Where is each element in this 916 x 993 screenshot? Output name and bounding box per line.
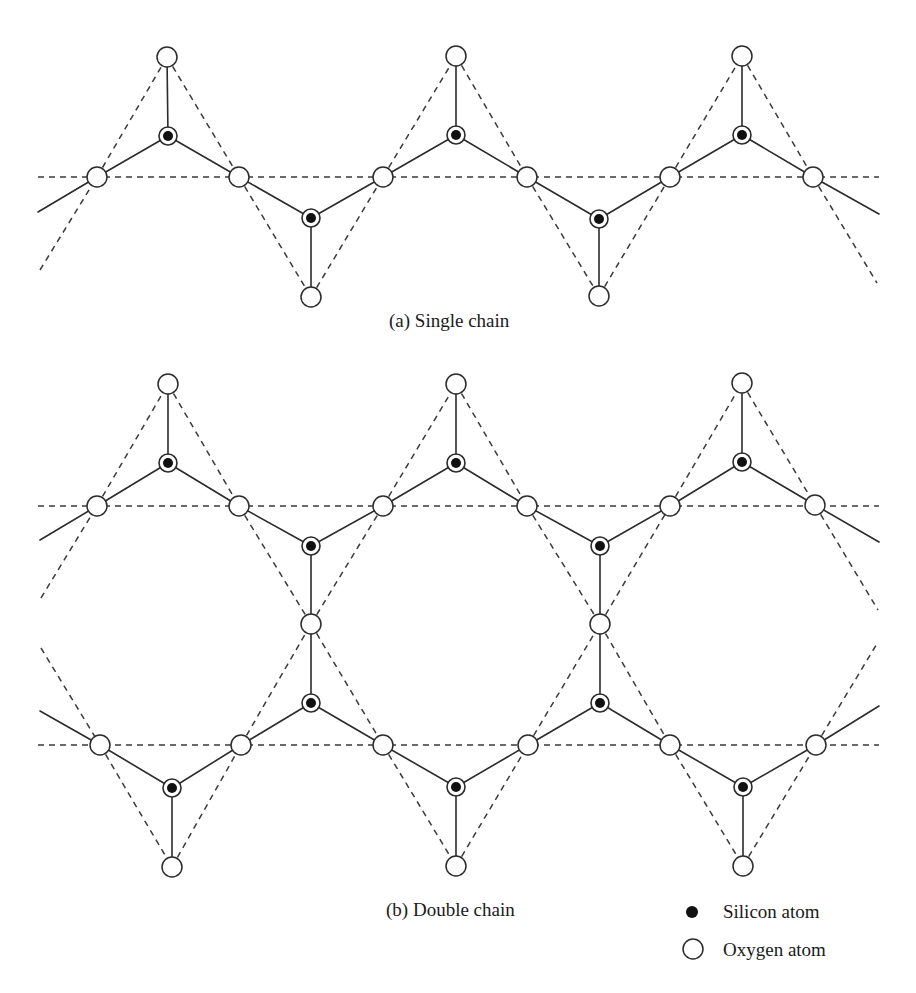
dashed-tetrahedron-edge — [239, 177, 311, 297]
silicon-atom-icon — [738, 782, 748, 792]
dashed-tetrahedron-edge — [670, 383, 742, 506]
silicon-atom-icon — [686, 906, 698, 918]
dashed-tetrahedron-edge — [816, 642, 878, 745]
oxygen-atom-icon — [517, 167, 537, 187]
caption-double-chain: (b) Double chain — [386, 899, 515, 921]
silicon-atom-icon — [737, 457, 747, 467]
oxygen-atom-icon — [733, 856, 753, 876]
panel-single-chain: (a) Single chain — [38, 46, 879, 332]
oxygen-atom-icon — [590, 614, 610, 634]
oxygen-atom-icon — [660, 496, 680, 516]
oxygen-atom-icon — [518, 735, 538, 755]
si-o-bond — [456, 463, 527, 506]
si-o-bond — [670, 745, 743, 787]
dashed-tetrahedron-edge — [742, 56, 813, 177]
oxygen-atom-icon — [229, 167, 249, 187]
si-o-bond — [241, 703, 311, 745]
oxygen-atom-icon — [732, 46, 752, 66]
oxygen-atom-icon — [157, 47, 177, 67]
dashed-tetrahedron-edge — [670, 745, 743, 866]
oxygen-atom-icon — [517, 496, 537, 516]
oxygen-atom-icon — [162, 857, 182, 877]
oxygen-atom-icon — [589, 286, 609, 306]
silicon-atom-icon — [451, 130, 461, 140]
si-o-bond — [456, 135, 527, 177]
oxygen-atom-icon — [660, 167, 680, 187]
silicon-atom-icon — [163, 131, 173, 141]
si-o-bond — [239, 177, 311, 218]
oxygen-atom-icon — [231, 735, 251, 755]
silicon-atom-icon — [306, 698, 316, 708]
si-o-bond — [600, 506, 670, 546]
si-o-bond — [600, 703, 670, 745]
dashed-tetrahedron-edge — [599, 177, 670, 296]
si-o-bond — [97, 136, 168, 177]
oxygen-atom-icon — [90, 735, 110, 755]
oxygen-atom-icon — [446, 46, 466, 66]
dashed-tetrahedron-edge — [743, 745, 816, 866]
dashed-tetrahedron-edge — [383, 384, 456, 506]
si-o-bond — [813, 177, 879, 214]
panel-double-chain: (b) Double chain — [38, 373, 879, 921]
oxygen-atom-icon — [87, 496, 107, 516]
si-o-bond — [527, 177, 599, 219]
oxygen-atom-icon — [158, 374, 178, 394]
dashed-tetrahedron-edge — [383, 56, 456, 177]
dashed-tetrahedron-edge — [527, 506, 600, 624]
dashed-tetrahedron-edge — [241, 624, 311, 745]
silicon-atom-icon — [594, 214, 604, 224]
oxygen-atom-icon — [373, 735, 393, 755]
si-o-bond — [527, 506, 600, 546]
si-o-bond — [456, 745, 528, 787]
si-o-bond — [311, 703, 383, 745]
silicon-atom-icon — [451, 458, 461, 468]
dashed-tetrahedron-edge — [97, 57, 167, 177]
silicon-atom-icon — [595, 698, 605, 708]
si-o-bond — [168, 136, 239, 177]
si-o-bond — [168, 463, 239, 506]
oxygen-atom-icon — [803, 167, 823, 187]
si-o-bond — [383, 745, 456, 787]
single-chain-dashed-lines — [38, 56, 879, 297]
silicon-atom-icon — [167, 783, 177, 793]
si-o-bond — [97, 463, 168, 506]
si-o-bond — [528, 703, 600, 745]
oxygen-atom-icon — [683, 939, 703, 959]
dashed-tetrahedron-edge — [97, 384, 168, 506]
dashed-tetrahedron-edge — [456, 745, 528, 866]
si-o-bond — [742, 135, 813, 177]
oxygen-atom-icon — [806, 735, 826, 755]
dashed-tetrahedron-edge — [172, 745, 241, 867]
silicon-atom-icon — [451, 782, 461, 792]
oxygen-atom-icon — [301, 287, 321, 307]
dashed-tetrahedron-edge — [813, 177, 877, 283]
dashed-tetrahedron-edge — [383, 745, 456, 866]
dashed-tetrahedron-edge — [168, 384, 239, 506]
si-o-bond — [239, 506, 311, 546]
dashed-tetrahedron-edge — [600, 624, 670, 745]
dashed-tetrahedron-edge — [311, 624, 383, 745]
si-o-bond — [670, 462, 742, 506]
dashed-tetrahedron-edge — [239, 506, 311, 624]
si-o-bond — [100, 745, 172, 788]
si-o-bond — [742, 462, 815, 505]
legend-label-oxygen: Oxygen atom — [723, 939, 826, 960]
oxygen-atom-icon — [805, 495, 825, 515]
dashed-tetrahedron-edge — [815, 505, 878, 610]
oxygen-atom-icon — [229, 496, 249, 516]
dashed-tetrahedron-edge — [100, 745, 172, 867]
si-o-bond — [383, 135, 456, 177]
oxygen-atom-icon — [373, 167, 393, 187]
dashed-tetrahedron-edge — [311, 177, 383, 297]
silicon-atom-icon — [306, 213, 316, 223]
dashed-tetrahedron-edge — [40, 177, 97, 270]
oxygen-atom-icon — [446, 374, 466, 394]
legend-item-oxygen: Oxygen atom — [683, 939, 826, 960]
dashed-tetrahedron-edge — [456, 56, 527, 177]
dashed-tetrahedron-edge — [600, 506, 670, 624]
si-o-bond — [167, 57, 168, 136]
si-o-bond — [815, 505, 879, 542]
dashed-tetrahedron-edge — [527, 177, 599, 296]
dashed-tetrahedron-edge — [311, 506, 383, 624]
si-o-bond — [311, 506, 383, 546]
